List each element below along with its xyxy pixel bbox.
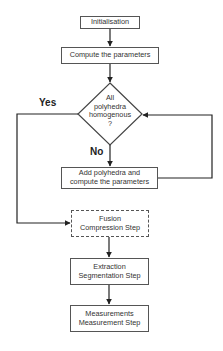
node-initialisation-label: Initialisation: [91, 18, 129, 27]
decision-text: All polyhedra homogenous ?: [80, 94, 140, 128]
node-measurements-line-2: Measurement Step: [79, 319, 141, 328]
no-label: No: [90, 146, 103, 157]
node-fusion-compression: Fusion Compression Step: [71, 210, 149, 237]
node-compute-parameters-label: Compute the parameters: [70, 51, 151, 60]
yes-label: Yes: [39, 97, 56, 108]
node-extraction-line-2: Segmentation Step: [78, 272, 140, 281]
node-measurements: Measurements Measurement Step: [70, 305, 149, 332]
node-compute-parameters: Compute the parameters: [61, 47, 159, 64]
decision-line-4: ?: [80, 120, 140, 129]
node-add-polyhedra-line-2: compute the parameters: [70, 178, 149, 187]
node-extraction-segmentation: Extraction Segmentation Step: [70, 258, 149, 285]
node-add-polyhedra: Add polyhedra and compute the parameters: [61, 167, 158, 189]
node-initialisation: Initialisation: [80, 16, 140, 29]
node-fusion-line-2: Compression Step: [80, 224, 140, 233]
